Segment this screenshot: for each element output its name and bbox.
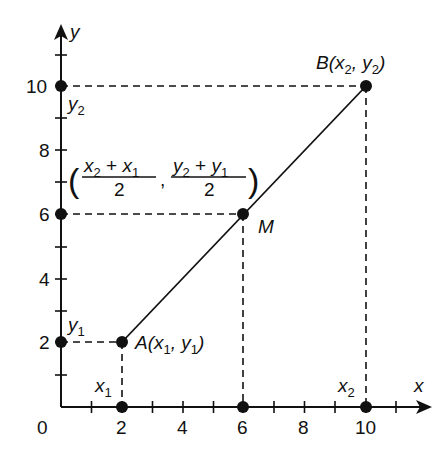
x-tick-label-6: 6 bbox=[237, 417, 248, 438]
y-tick-label-4: 4 bbox=[39, 269, 50, 290]
label-point-a: A(x1, y1) bbox=[134, 332, 204, 357]
point-x-mid bbox=[237, 401, 249, 413]
point-a bbox=[116, 336, 128, 348]
midpoint-diagram: x y 0 2 4 6 8 10 2 4 6 8 10 x1 x2 y1 y2 … bbox=[0, 0, 447, 456]
formula-close-paren: ) bbox=[248, 161, 259, 199]
x-axis-label: x bbox=[413, 375, 425, 396]
label-point-m: M bbox=[258, 216, 274, 237]
label-y1: y1 bbox=[66, 314, 85, 339]
formula-open-paren: ( bbox=[68, 161, 80, 199]
y-tick-label-6: 6 bbox=[39, 204, 50, 225]
x-tick-label-10: 10 bbox=[355, 417, 376, 438]
y-tick-label-10: 10 bbox=[26, 76, 47, 97]
point-y-mid bbox=[55, 208, 67, 220]
label-point-b: B(x2, y2) bbox=[316, 52, 385, 77]
formula-separator: , bbox=[160, 169, 165, 190]
point-m bbox=[237, 208, 249, 220]
origin-label: 0 bbox=[37, 417, 48, 438]
y-tick-label-2: 2 bbox=[39, 332, 50, 353]
formula-x-denominator: 2 bbox=[114, 179, 125, 200]
point-x1 bbox=[116, 401, 128, 413]
x-tick-label-8: 8 bbox=[298, 417, 309, 438]
point-b bbox=[360, 80, 372, 92]
formula-y-denominator: 2 bbox=[204, 179, 215, 200]
y-axis-label: y bbox=[68, 21, 81, 42]
x-tick-label-4: 4 bbox=[177, 417, 188, 438]
midpoint-formula: ( x2 + x1 2 , y2 + y1 2 ) bbox=[68, 155, 259, 200]
point-x2 bbox=[360, 401, 372, 413]
point-y1 bbox=[55, 336, 67, 348]
y-tick-label-8: 8 bbox=[39, 140, 50, 161]
label-y2: y2 bbox=[66, 93, 85, 118]
label-x2: x2 bbox=[337, 375, 355, 400]
label-x1: x1 bbox=[94, 375, 112, 400]
x-tick-label-2: 2 bbox=[116, 417, 127, 438]
point-y2 bbox=[55, 80, 67, 92]
